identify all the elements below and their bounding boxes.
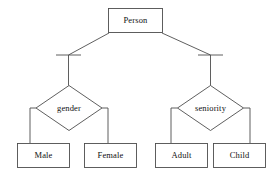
discriminator-diamond-seniority[interactable] <box>178 86 244 131</box>
entity-box-male[interactable] <box>18 144 70 168</box>
edge-seniority-to-child <box>244 108 251 143</box>
diagram-canvas: Person gender seniority Male Female Adul… <box>0 0 276 173</box>
entity-box-adult[interactable] <box>156 144 208 168</box>
edge-person-to-seniority-bar <box>162 33 211 55</box>
entity-box-person[interactable] <box>109 9 163 33</box>
diagram-vector-layer <box>0 0 276 173</box>
edge-seniority-to-adult <box>171 108 178 143</box>
entity-box-child[interactable] <box>214 144 266 168</box>
edge-gender-to-male <box>30 108 36 143</box>
edge-person-to-gender-bar <box>69 33 110 55</box>
entity-box-female[interactable] <box>85 144 137 168</box>
discriminator-diamond-gender[interactable] <box>36 86 102 131</box>
edge-gender-to-female <box>102 108 108 143</box>
